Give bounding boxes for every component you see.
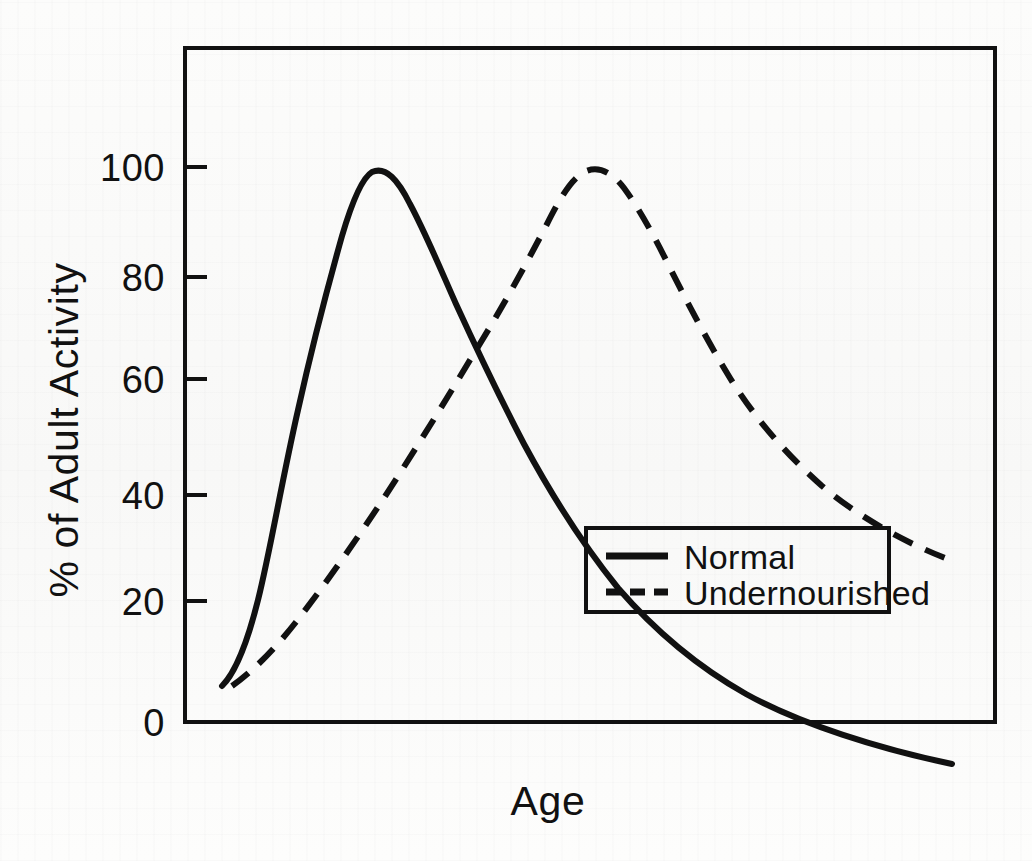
y-tick-label-100: 100: [100, 147, 165, 189]
y-tick-label-60: 60: [122, 359, 165, 401]
y-tick-label-80: 80: [122, 257, 165, 299]
series-line-normal: [222, 171, 952, 764]
y-tick-label-20: 20: [122, 581, 165, 623]
legend-label-undernourished: Undernourished: [684, 574, 930, 612]
line-chart: 100 80 60 40 20 0 % of Adult Activity Ag…: [0, 0, 1032, 861]
legend-label-normal: Normal: [684, 538, 795, 576]
figure-page: 100 80 60 40 20 0 % of Adult Activity Ag…: [0, 0, 1032, 861]
x-axis-title: Age: [511, 778, 586, 824]
y-axis-ticks: [185, 167, 207, 601]
y-tick-label-0: 0: [143, 702, 165, 744]
y-tick-label-40: 40: [122, 475, 165, 517]
chart-figure: 100 80 60 40 20 0 % of Adult Activity Ag…: [0, 0, 1032, 861]
y-axis-title: % of Adult Activity: [41, 263, 87, 598]
